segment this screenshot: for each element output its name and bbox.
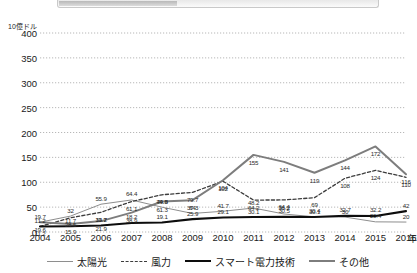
data-label: 32 [67,206,73,213]
data-label: 30.1 [309,207,320,214]
data-label: 32.2 [370,206,381,213]
x-axis-tick-labels: 2004200520062007200820092010201120122013… [0,232,416,248]
data-label: 32.7 [339,206,350,213]
data-label: 11.2 [35,216,46,223]
legend-label: 太陽光 [77,254,107,269]
data-label: 21.9 [95,225,106,232]
x-axis-tick: 2008 [151,232,172,243]
legend-item[interactable]: スマート電力技術 [185,254,295,269]
legend-item[interactable]: 太陽光 [47,254,107,269]
data-label: 11.7 [65,216,76,223]
legend-swatch [121,261,147,262]
data-label: 116 [401,178,410,185]
data-label: 119 [310,176,319,183]
data-label: 13.2 [95,215,106,222]
x-axis-tick: 2006 [90,232,111,243]
x-axis-tick: 2011 [243,232,263,243]
data-label: 144 [340,164,350,171]
legend-label: その他 [339,254,369,269]
data-label: 30.1 [248,207,259,214]
legend-label: スマート電力技術 [215,254,295,269]
data-label: 61.1 [126,205,137,212]
chart-legend: 太陽光風力スマート電力技術その他 [0,251,416,271]
data-label: 30.5 [278,207,289,214]
data-label: 141 [279,165,289,172]
x-axis-tick: 2012 [273,232,294,243]
legend-label: 風力 [151,254,171,269]
legend-swatch [185,260,211,262]
data-label: 79.7 [187,195,198,202]
x-axis-tick: 2005 [60,232,81,243]
x-axis-tick: 2007 [121,232,142,243]
data-label: 64 [189,204,195,211]
data-label: 42 [403,201,409,208]
x-axis-name: 年 [408,232,417,245]
data-label: 64.4 [126,190,137,197]
x-axis-tick: 2004 [29,232,50,243]
data-label: 155 [249,158,259,165]
data-label: 29.1 [217,208,228,215]
legend-swatch [47,261,73,262]
x-axis-tick: 2015 [365,232,386,243]
legend-item[interactable]: 風力 [121,254,171,269]
legend-swatch [309,260,335,262]
data-label: 124 [371,173,381,180]
data-label: 74.8 [156,198,167,205]
x-axis-tick: 2009 [182,232,203,243]
data-label: 61.3 [156,205,167,212]
data-label: 19.1 [156,212,167,219]
data-label: 55.9 [95,194,106,201]
data-label: 38.9 [126,216,137,223]
data-label: 20 [403,212,409,219]
data-label: 172 [371,150,381,157]
legend-item[interactable]: その他 [309,254,369,269]
x-axis-tick: 2010 [212,232,233,243]
data-label: 108 [340,181,350,188]
x-axis-tick: 2013 [304,232,325,243]
data-label: 104 [218,184,228,191]
x-axis-tick: 2014 [334,232,355,243]
